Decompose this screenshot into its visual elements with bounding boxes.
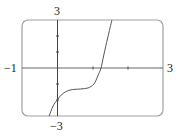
x-min-label: −1: [4, 62, 17, 74]
chart-canvas: [0, 0, 183, 137]
y-min-label: −3: [50, 120, 63, 132]
y-max-label: 3: [54, 5, 60, 17]
x-max-label: 3: [167, 62, 173, 74]
